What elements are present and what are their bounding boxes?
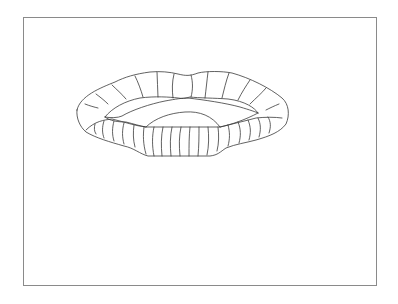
mouth-line-right [188,98,258,113]
lower-lip-contour [153,127,155,156]
upper-lip-contour [96,94,108,104]
lower-lip-contour [161,127,163,156]
lower-lip-contour [207,127,209,155]
lower-lip-contour [238,122,240,143]
upper-lip-contour [157,72,158,97]
lower-lip-contour [103,121,105,138]
lower-lip-front-edge-right [220,117,282,127]
lower-lip-inner-edge [105,113,258,127]
lower-lip-contour [179,127,181,156]
upper-lip-contour [205,72,208,98]
lower-lip-contour [198,127,199,156]
lower-lip-inner-arc [146,112,220,127]
lower-lip-contour [217,127,219,151]
upper-lip-contour [266,104,279,110]
upper-lip-inner-edge [105,97,258,117]
lower-lip-contour [113,121,115,141]
lower-lip-contour [123,123,125,144]
upper-lip-contour [85,104,98,108]
lower-lip-contour [133,125,135,147]
mouth-line [105,98,188,118]
upper-lip-contour [191,75,193,97]
lower-lip-contour [170,127,172,156]
lower-lip-contour [143,127,146,154]
lips-drawing [0,0,398,304]
lower-lip-contour [228,125,230,146]
lower-lip-contour [268,117,270,133]
lower-lip-contour [94,124,96,134]
upper-lip-contour [172,74,174,98]
lower-lip-contour [248,120,250,140]
upper-lip-contour [238,80,250,100]
upper-lip-contour [112,85,126,99]
upper-lip-contour [135,76,143,97]
upper-lip-contour [222,73,229,98]
lower-lip-contour [258,118,260,137]
lower-lip-contour [189,127,190,156]
upper-lip-contour [250,88,266,104]
